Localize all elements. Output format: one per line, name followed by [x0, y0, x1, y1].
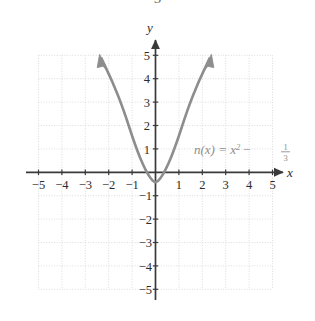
x-tick-label: 1 [176, 178, 182, 192]
x-tick-label: 3 [223, 178, 229, 192]
equation-function: n(x) = x [194, 142, 236, 157]
fraction-denominator: 3 [283, 153, 287, 163]
equation-exponent: 2 [236, 142, 241, 152]
coordinate-plane-svg: −5 −4 −3 −2 −1 1 2 3 4 5 5 4 3 2 1 −1 −2… [0, 0, 315, 321]
y-axis-label: y [145, 20, 153, 35]
fraction-numerator: 1 [283, 142, 287, 152]
x-tick-label: −3 [79, 178, 92, 192]
x-tick-label: −2 [102, 178, 115, 192]
x-tick-label: 5 [269, 178, 275, 192]
x-tick-label: 2 [199, 178, 205, 192]
y-tick-label: −5 [139, 283, 152, 297]
y-tick-label: −2 [139, 213, 152, 227]
y-tick-label: 2 [144, 119, 150, 133]
x-tick-label: −5 [32, 178, 45, 192]
graph-figure: −5 −4 −3 −2 −1 1 2 3 4 5 5 4 3 2 1 −1 −2… [0, 0, 315, 321]
y-tick-label: −1 [139, 189, 152, 203]
equation-minus: − [242, 142, 251, 157]
y-tick-label: −4 [139, 260, 153, 274]
y-tick-label: 4 [144, 72, 151, 86]
y-tick-label: 1 [144, 143, 150, 157]
equation-fraction: 1 3 [281, 142, 290, 163]
equation-annotation: n(x) = x2− 1 3 [194, 142, 290, 163]
equation-main: n(x) = x2− [194, 142, 251, 158]
y-tick-label: 5 [144, 49, 150, 63]
curve-arrowhead-left [97, 54, 107, 70]
x-tick-label: −4 [55, 178, 69, 192]
x-axis-label: x [286, 165, 293, 180]
curve-arrowhead-right [204, 54, 214, 70]
y-tick-label: −3 [139, 236, 152, 250]
x-tick-label: −1 [125, 178, 138, 192]
y-tick-label: 3 [144, 96, 150, 110]
x-tick-label: 4 [246, 178, 253, 192]
